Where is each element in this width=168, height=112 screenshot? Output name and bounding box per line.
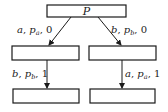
edge-label-left-down: b, pb, 1	[12, 68, 48, 81]
left-middle-node	[12, 46, 79, 60]
right-bottom-node	[90, 89, 155, 103]
left-bottom-node	[13, 89, 79, 103]
edge-label-right-down: a, pa, 1	[125, 68, 160, 81]
right-middle-node	[89, 46, 156, 60]
edge-label-root-right: b, pb, 0	[111, 24, 147, 37]
edge-label-root-left: a, pa, 0	[17, 24, 52, 37]
root-label: P	[82, 5, 91, 18]
tree-diagram: P a, pa, 0 b, pb, 0 b, pb, 1 a, pa, 1	[0, 0, 168, 112]
root-node: P	[47, 5, 126, 18]
